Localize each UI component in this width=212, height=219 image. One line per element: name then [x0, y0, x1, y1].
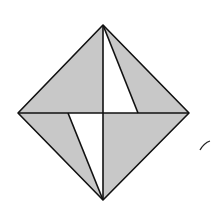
diamond-figure	[0, 0, 212, 219]
stray-pen-mark	[200, 141, 210, 150]
